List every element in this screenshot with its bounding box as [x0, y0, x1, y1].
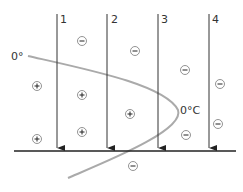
line-label-2: 2	[111, 13, 118, 26]
positive-charge-icon	[78, 128, 87, 137]
negative-charge-icon	[129, 162, 138, 171]
line-label-1: 1	[60, 13, 67, 26]
negative-charge-icon	[131, 47, 140, 56]
negative-charge-icon	[78, 37, 87, 46]
charge-diagram: 1 2 3 4 0° 0°C	[0, 0, 243, 192]
negative-charge-icon	[214, 120, 223, 129]
positive-charge-icon	[33, 82, 42, 91]
line-label-3: 3	[161, 13, 168, 26]
isotherm-label-right: 0°C	[180, 104, 200, 117]
positive-charge-icon	[33, 135, 42, 144]
positive-charge-icon	[126, 110, 135, 119]
negative-charge-icon	[216, 80, 225, 89]
negative-charge-icon	[181, 66, 190, 75]
positive-charge-icon	[78, 91, 87, 100]
isotherm-label-left: 0°	[11, 50, 24, 63]
line-label-4: 4	[212, 13, 219, 26]
negative-charge-icon	[182, 131, 191, 140]
isotherm-curve	[28, 56, 178, 178]
